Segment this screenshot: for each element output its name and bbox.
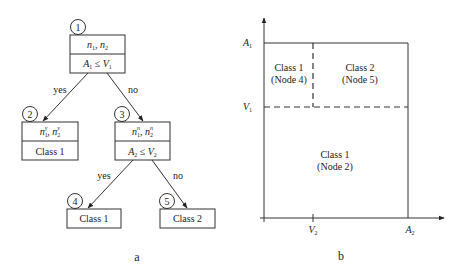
region-node-4-class: Class 1: [274, 62, 303, 73]
panel-b-caption: b: [338, 249, 344, 263]
node-1: 1 n1, n2 A1 ≤ V1: [70, 20, 125, 74]
x-label-v2: V2: [308, 224, 317, 236]
x-label-a2: A2: [404, 224, 414, 236]
region-node-5-label: (Node 5): [342, 74, 378, 86]
node-5-class: Class 2: [173, 213, 202, 224]
node-4-number: 4: [73, 196, 78, 207]
node-2-counts: n1y, n2y: [40, 125, 61, 138]
edge-1-2-label: yes: [53, 84, 66, 95]
node-1-counts: n1, n2: [87, 39, 108, 51]
node-1-number: 1: [76, 22, 81, 33]
decision-tree: 1 n1, n2 A1 ≤ V1 yes no 2 n1y, n2y Class…: [22, 20, 215, 265]
region-node-4-label: (Node 4): [271, 74, 307, 86]
edge-3-to-4: [88, 160, 133, 208]
panel-a-caption: a: [134, 250, 140, 264]
partition-plot: A1 V1 V2 A2 Class 1 (Node 4) Class 2 (No…: [242, 18, 444, 263]
edge-1-to-2: [43, 73, 88, 121]
region-node-2-class: Class 1: [320, 149, 349, 160]
edge-1-3-label: no: [128, 84, 138, 95]
diagram-canvas: 1 n1, n2 A1 ≤ V1 yes no 2 n1y, n2y Class…: [0, 0, 465, 272]
node-3-split-rule: A2 ≤ V2: [127, 146, 157, 158]
node-3: 3 n1n, n2n A2 ≤ V2: [115, 107, 171, 161]
edge-3-4-label: yes: [97, 170, 110, 181]
node-5-number: 5: [165, 196, 170, 207]
region-node-5-class: Class 2: [345, 62, 374, 73]
node-2-number: 2: [28, 109, 33, 120]
y-label-a1: A1: [242, 37, 252, 49]
node-2-class: Class 1: [35, 146, 64, 157]
region-node-2-label: (Node 2): [317, 161, 353, 173]
node-1-split-rule: A1 ≤ V1: [82, 58, 112, 70]
node-4: 4 Class 1: [67, 194, 121, 229]
y-label-v1: V1: [243, 101, 252, 113]
node-3-number: 3: [120, 109, 125, 120]
node-5: 5 Class 2: [160, 194, 216, 229]
node-2: 2 n1y, n2y Class 1: [22, 107, 78, 161]
edge-3-5-label: no: [173, 170, 183, 181]
node-4-class: Class 1: [79, 213, 108, 224]
node-3-counts: n1n, n2n: [132, 125, 153, 138]
